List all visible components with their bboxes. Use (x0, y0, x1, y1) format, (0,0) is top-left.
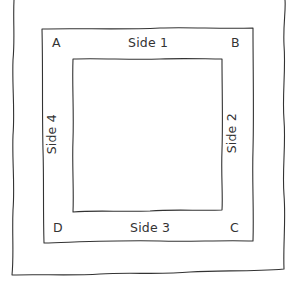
inner-square-border (73, 59, 223, 212)
side-label-4: Side 4 (46, 114, 59, 154)
corner-label-d: D (53, 222, 63, 235)
side-label-3: Side 3 (130, 222, 170, 235)
square-frame-diagram: A B C D Side 1 Side 3 Side 4 Side 2 (0, 0, 298, 287)
corner-label-b: B (231, 37, 240, 50)
side-label-2: Side 2 (226, 113, 239, 153)
side-label-1: Side 1 (128, 37, 168, 50)
corner-label-c: C (230, 222, 239, 235)
corner-label-a: A (52, 37, 61, 50)
